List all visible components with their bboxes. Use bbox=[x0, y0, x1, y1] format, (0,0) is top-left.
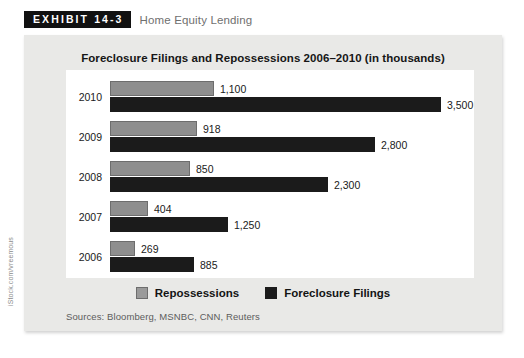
bar-value-label: 1,100 bbox=[220, 83, 246, 95]
bar-line: 3,500 bbox=[110, 97, 473, 112]
bar-group: 8502,300 bbox=[66, 159, 474, 195]
exhibit-badge: EXHIBIT 14-3 bbox=[24, 11, 131, 28]
bar-line: 2,300 bbox=[110, 177, 360, 192]
bar-foreclosure-filings bbox=[110, 97, 441, 112]
legend-swatch-foreclosure-filings bbox=[265, 287, 277, 299]
chart-legend: RepossessionsForeclosure Filings bbox=[24, 287, 502, 299]
bar-line: 404 bbox=[110, 201, 172, 216]
bar-value-label: 1,250 bbox=[234, 219, 260, 231]
bar-group: 9182,800 bbox=[66, 119, 474, 155]
legend-item: Repossessions bbox=[136, 287, 239, 299]
bar-value-label: 3,500 bbox=[447, 99, 473, 111]
bar-line: 269 bbox=[110, 241, 159, 256]
bar-value-label: 2,300 bbox=[334, 179, 360, 191]
bar-row: 2006269885 bbox=[66, 239, 474, 275]
bar-foreclosure-filings bbox=[110, 257, 194, 272]
bar-group: 269885 bbox=[66, 239, 474, 275]
bar-value-label: 885 bbox=[200, 259, 218, 271]
bar-row: 20074041,250 bbox=[66, 199, 474, 235]
bar-line: 850 bbox=[110, 161, 214, 176]
exhibit-card: Foreclosure Filings and Repossessions 20… bbox=[24, 35, 502, 331]
bar-value-label: 404 bbox=[154, 203, 172, 215]
bar-foreclosure-filings bbox=[110, 177, 328, 192]
bar-repossessions bbox=[110, 201, 148, 216]
sources-note: Sources: Bloomberg, MSNBC, CNN, Reuters bbox=[66, 311, 260, 322]
bar-group: 4041,250 bbox=[66, 199, 474, 235]
legend-label: Repossessions bbox=[155, 287, 239, 299]
bar-line: 918 bbox=[110, 121, 221, 136]
legend-swatch-repossessions bbox=[136, 287, 148, 299]
bar-row: 20101,1003,500 bbox=[66, 79, 474, 115]
bar-line: 885 bbox=[110, 257, 218, 272]
bar-group: 1,1003,500 bbox=[66, 79, 474, 115]
bar-repossessions bbox=[110, 81, 214, 96]
bar-repossessions bbox=[110, 121, 197, 136]
bar-row: 20099182,800 bbox=[66, 119, 474, 155]
bar-value-label: 918 bbox=[203, 123, 221, 135]
bar-value-label: 850 bbox=[196, 163, 214, 175]
bar-foreclosure-filings bbox=[110, 137, 375, 152]
bar-line: 1,250 bbox=[110, 217, 260, 232]
bar-rows: 20101,1003,50020099182,80020088502,30020… bbox=[66, 70, 474, 278]
legend-item: Foreclosure Filings bbox=[265, 287, 390, 299]
exhibit-subtitle: Home Equity Lending bbox=[140, 14, 253, 26]
bar-repossessions bbox=[110, 161, 190, 176]
chart-plot-area: 20101,1003,50020099182,80020088502,30020… bbox=[66, 70, 474, 278]
legend-label: Foreclosure Filings bbox=[284, 287, 390, 299]
bar-foreclosure-filings bbox=[110, 217, 228, 232]
bar-line: 1,100 bbox=[110, 81, 246, 96]
bar-repossessions bbox=[110, 241, 135, 256]
bar-line: 2,800 bbox=[110, 137, 407, 152]
exhibit-header: EXHIBIT 14-3 Home Equity Lending bbox=[24, 11, 252, 28]
photo-credit: iStock.com/vreemous bbox=[7, 232, 14, 312]
bar-value-label: 269 bbox=[141, 243, 159, 255]
bar-value-label: 2,800 bbox=[381, 139, 407, 151]
chart-title: Foreclosure Filings and Repossessions 20… bbox=[24, 52, 502, 64]
bar-row: 20088502,300 bbox=[66, 159, 474, 195]
